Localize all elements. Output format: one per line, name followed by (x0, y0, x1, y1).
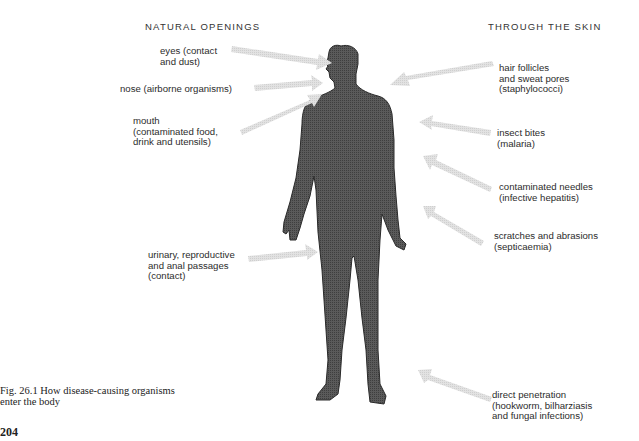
label-mouth: mouth (contaminated food, drink and uten… (133, 116, 218, 148)
arrows-through-the-skin (390, 61, 494, 402)
arrow-direct-penetration (418, 369, 492, 402)
arrow-eyes (231, 46, 332, 70)
heading-natural-openings: NATURAL OPENINGS (145, 21, 260, 32)
arrow-nose (254, 75, 323, 91)
label-scratches: scratches and abrasions (septicaemia) (494, 231, 598, 252)
page-number: 204 (0, 425, 18, 440)
label-nose: nose (airborne organisms) (120, 84, 232, 95)
heading-through-the-skin: THROUGH THE SKIN (488, 21, 602, 32)
label-direct-penetration: direct penetration (hookworm, bilharzias… (492, 390, 592, 422)
label-insect-bites: insect bites (malaria) (497, 128, 545, 149)
label-needles: contaminated needles (infective hepatiti… (499, 182, 593, 203)
figure-caption: Fig. 26.1 How disease-causing organisms … (0, 385, 175, 407)
arrow-hair-follicles (390, 61, 494, 86)
label-urinary: urinary, reproductive and anal passages … (148, 250, 235, 282)
label-eyes: eyes (contact and dust) (160, 46, 217, 67)
arrow-urinary (248, 244, 318, 262)
arrow-needles (423, 154, 492, 192)
arrow-insect-bites (419, 115, 491, 136)
arrow-scratches (423, 206, 484, 246)
human-figure-silhouette (283, 45, 406, 404)
label-hair-follicles: hair follicles and sweat pores (staphylo… (499, 63, 569, 95)
